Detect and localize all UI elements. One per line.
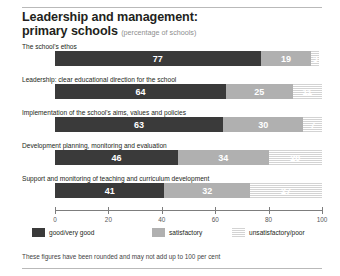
bar-segment-value: 27 <box>281 186 291 196</box>
legend-swatch-satis <box>152 228 165 237</box>
bar-segment-satis: 25 <box>226 84 293 99</box>
chart-page: Leadership and management: primary schoo… <box>0 0 340 276</box>
x-axis-tick <box>322 207 323 214</box>
bar-segment-value: 77 <box>153 54 163 64</box>
bar-segment-satis: 34 <box>178 150 269 165</box>
bar-segment-value: 11 <box>303 87 313 97</box>
legend-label: good/very good <box>49 229 94 236</box>
title-line-1: Leadership and management: <box>22 10 198 24</box>
x-axis-tick-label: 60 <box>212 216 219 223</box>
bar-segment-value: 34 <box>218 153 228 163</box>
bar-segment-good: 63 <box>55 117 223 132</box>
x-axis-tick-label: 40 <box>158 216 165 223</box>
bar-segment-value: 20 <box>290 153 300 163</box>
x-axis-tick <box>108 207 109 214</box>
stacked-bar: 413227 <box>55 183 322 198</box>
x-axis: 020406080100 <box>55 210 322 211</box>
legend-item-unsat: unsatisfactory/poor <box>232 228 305 237</box>
chart-row-label: Development planning, monitoring and eva… <box>22 141 322 150</box>
bar-segment-value: 32 <box>202 186 212 196</box>
bar-segment-value: 3 <box>313 54 318 64</box>
chart-row: Leadership: clear educational direction … <box>22 75 322 108</box>
chart-row: Support and monitoring of teaching and c… <box>22 174 322 207</box>
legend-swatch-good <box>32 228 45 237</box>
bar-segment-value: 30 <box>258 120 268 130</box>
page-title: Leadership and management: primary schoo… <box>22 11 322 39</box>
x-axis-tick <box>55 207 56 214</box>
bottom-divider <box>22 268 322 269</box>
title-subtitle: (percentage of schools) <box>121 28 196 37</box>
x-axis-tick <box>162 207 163 214</box>
bar-segment-unsat: 3 <box>311 51 319 66</box>
chart-legend: good/very goodsatisfactoryunsatisfactory… <box>22 228 322 241</box>
stacked-bar-chart: The school's ethos77193Leadership: clear… <box>22 42 322 207</box>
chart-row-label: The school's ethos <box>22 42 322 51</box>
bar-segment-unsat: 7 <box>303 117 322 132</box>
bar-segment-satis: 30 <box>223 117 303 132</box>
chart-row: The school's ethos77193 <box>22 42 322 75</box>
stacked-bar: 642511 <box>55 84 322 99</box>
bar-segment-value: 63 <box>134 120 144 130</box>
bar-segment-unsat: 20 <box>269 150 322 165</box>
bar-segment-unsat: 27 <box>250 183 322 198</box>
x-axis-tick-label: 80 <box>265 216 272 223</box>
chart-row-label: Support and monitoring of teaching and c… <box>22 174 322 183</box>
x-axis-tick-label: 100 <box>317 216 328 223</box>
bar-segment-value: 25 <box>254 87 264 97</box>
stacked-bar: 63307 <box>55 117 322 132</box>
top-divider <box>22 7 322 8</box>
bar-segment-satis: 32 <box>164 183 249 198</box>
footnote: These figures have been rounded and may … <box>22 253 220 260</box>
bar-segment-unsat: 11 <box>293 84 322 99</box>
x-axis-tick-label: 20 <box>105 216 112 223</box>
chart-row: Development planning, monitoring and eva… <box>22 141 322 174</box>
chart-row-label: Implementation of the school's aims, val… <box>22 108 322 117</box>
legend-label: unsatisfactory/poor <box>249 229 305 236</box>
chart-row: Implementation of the school's aims, val… <box>22 108 322 141</box>
bar-segment-good: 46 <box>55 150 178 165</box>
legend-swatch-unsat <box>232 228 245 237</box>
x-axis-tick-label: 0 <box>53 216 57 223</box>
bar-segment-good: 64 <box>55 84 226 99</box>
bar-segment-value: 64 <box>135 87 145 97</box>
bar-segment-value: 41 <box>105 186 115 196</box>
x-axis-tick <box>215 207 216 214</box>
bar-segment-satis: 19 <box>261 51 312 66</box>
legend-item-good: good/very good <box>32 228 94 237</box>
bar-segment-good: 77 <box>55 51 261 66</box>
legend-item-satis: satisfactory <box>152 228 202 237</box>
title-line-2: primary schools <box>22 24 118 38</box>
stacked-bar: 77193 <box>55 51 322 66</box>
x-axis-tick <box>269 207 270 214</box>
bar-segment-value: 19 <box>281 54 291 64</box>
bar-segment-good: 41 <box>55 183 164 198</box>
bar-segment-value: 46 <box>111 153 121 163</box>
stacked-bar: 463420 <box>55 150 322 165</box>
bar-segment-value: 7 <box>310 120 315 130</box>
legend-label: satisfactory <box>169 229 202 236</box>
chart-row-label: Leadership: clear educational direction … <box>22 75 322 84</box>
